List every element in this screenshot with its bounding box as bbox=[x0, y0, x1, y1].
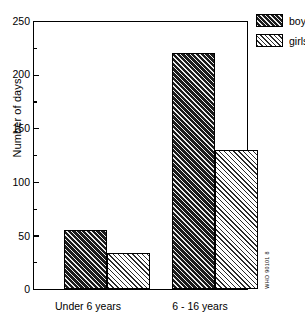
y-tick-label-250: 250 bbox=[0, 16, 30, 26]
legend-item-girls: girls bbox=[256, 34, 305, 47]
y-tick-label-0: 0 bbox=[0, 284, 30, 294]
x-tick-label-under-6: Under 6 years bbox=[28, 300, 148, 312]
x-axis-line bbox=[33, 289, 248, 290]
legend-label-boys: boys bbox=[289, 16, 305, 26]
legend-swatch-boys bbox=[256, 14, 283, 27]
bars-area bbox=[33, 21, 248, 289]
bar-boys-under-6 bbox=[64, 230, 107, 289]
legend-item-boys: boys bbox=[256, 14, 305, 27]
bar-boys-6-16 bbox=[172, 53, 215, 289]
y-tick-label-200: 200 bbox=[0, 69, 30, 79]
legend-label-girls: girls bbox=[289, 36, 305, 46]
x-tick-label-6-16: 6 - 16 years bbox=[145, 300, 255, 312]
y-tick-label-50: 50 bbox=[0, 231, 30, 241]
bar-girls-under-6 bbox=[107, 253, 150, 289]
y-tick-label-100: 100 bbox=[0, 177, 30, 187]
legend: boys girls bbox=[256, 14, 305, 54]
legend-swatch-girls bbox=[256, 34, 283, 47]
bar-chart-figure: Number of days 250 200 150 100 50 0 Unde… bbox=[0, 0, 305, 323]
bar-girls-6-16 bbox=[215, 150, 258, 289]
y-tick-label-150: 150 bbox=[0, 123, 30, 133]
who-credit-text: WHO 90101 8 bbox=[264, 240, 270, 300]
